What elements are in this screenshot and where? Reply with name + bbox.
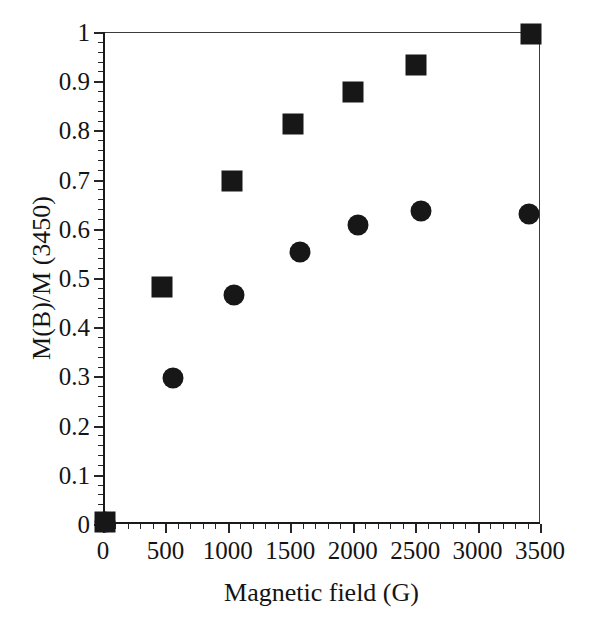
y-tick-major	[94, 278, 103, 280]
x-tick-minor	[378, 524, 379, 529]
y-tick-minor	[98, 298, 103, 299]
y-tick-minor	[98, 317, 103, 318]
x-tick-minor	[515, 524, 516, 529]
x-tick-label: 2500	[390, 538, 440, 563]
y-tick-minor	[98, 396, 103, 397]
y-tick-major	[94, 180, 103, 182]
x-tick-minor	[253, 524, 254, 529]
y-tick-label: 0.8	[59, 118, 90, 143]
y-tick-minor	[98, 347, 103, 348]
x-tick-major	[165, 524, 167, 533]
data-point-circle	[518, 204, 539, 225]
y-tick-minor	[98, 445, 103, 446]
x-tick-major	[228, 524, 230, 533]
x-tick-minor	[328, 524, 329, 529]
data-point-circle	[224, 285, 245, 306]
y-tick-minor	[98, 170, 103, 171]
y-tick-minor	[98, 101, 103, 102]
y-tick-minor	[98, 111, 103, 112]
y-tick-minor	[98, 485, 103, 486]
y-tick-minor	[98, 357, 103, 358]
y-tick-major	[94, 81, 103, 83]
plot-area: 00.10.20.30.40.50.60.70.80.91 0500100015…	[103, 32, 540, 524]
scan-artifact	[0, 604, 595, 622]
y-tick-minor	[98, 160, 103, 161]
y-tick-label: 1	[78, 20, 91, 45]
x-tick-minor	[278, 524, 279, 529]
y-tick-minor	[98, 504, 103, 505]
y-tick-minor	[98, 248, 103, 249]
data-point-square	[221, 170, 242, 191]
x-tick-minor	[240, 524, 241, 529]
y-tick-minor	[98, 258, 103, 259]
y-tick-major	[94, 376, 103, 378]
y-tick-label: 0.4	[59, 315, 90, 340]
y-axis-title: M(B)/M (3450)	[22, 32, 62, 524]
y-tick-minor	[98, 239, 103, 240]
x-tick-minor	[390, 524, 391, 529]
data-point-circle	[290, 242, 311, 263]
y-tick-minor	[98, 52, 103, 53]
x-tick-minor	[453, 524, 454, 529]
y-tick-minor	[98, 71, 103, 72]
y-tick-label: 0.2	[59, 413, 90, 438]
y-tick-minor	[98, 288, 103, 289]
x-tick-major	[478, 524, 480, 533]
x-axis-title: Magnetic field (G)	[103, 580, 540, 606]
x-tick-label: 1000	[203, 538, 253, 563]
x-tick-label: 2000	[328, 538, 378, 563]
x-tick-minor	[440, 524, 441, 529]
y-tick-minor	[98, 308, 103, 309]
x-tick-minor	[190, 524, 191, 529]
x-tick-label: 3000	[453, 538, 503, 563]
y-tick-minor	[98, 367, 103, 368]
y-tick-minor	[98, 42, 103, 43]
x-tick-minor	[403, 524, 404, 529]
y-tick-minor	[98, 189, 103, 190]
x-tick-major	[540, 524, 542, 533]
y-tick-minor	[98, 121, 103, 122]
y-tick-minor	[98, 199, 103, 200]
y-tick-major	[94, 475, 103, 477]
y-tick-minor	[98, 219, 103, 220]
y-tick-minor	[98, 62, 103, 63]
x-tick-minor	[140, 524, 141, 529]
data-point-square	[521, 24, 542, 45]
x-tick-minor	[128, 524, 129, 529]
y-tick-minor	[98, 435, 103, 436]
y-tick-minor	[98, 337, 103, 338]
y-tick-minor	[98, 150, 103, 151]
y-tick-minor	[98, 91, 103, 92]
x-tick-minor	[315, 524, 316, 529]
y-tick-major	[94, 229, 103, 231]
x-tick-minor	[503, 524, 504, 529]
y-tick-minor	[98, 494, 103, 495]
x-tick-major	[415, 524, 417, 533]
data-point-circle	[162, 367, 183, 388]
axis-spine-top	[103, 32, 540, 33]
data-point-circle	[347, 214, 368, 235]
figure: 00.10.20.30.40.50.60.70.80.91 0500100015…	[0, 0, 595, 622]
axis-spine-bottom	[103, 522, 540, 524]
y-tick-minor	[98, 465, 103, 466]
x-tick-minor	[365, 524, 366, 529]
x-tick-minor	[178, 524, 179, 529]
x-tick-minor	[203, 524, 204, 529]
y-tick-label: 0.3	[59, 364, 90, 389]
x-tick-label: 0	[97, 538, 110, 563]
x-tick-minor	[153, 524, 154, 529]
x-tick-label: 3500	[515, 538, 565, 563]
x-tick-label: 1500	[265, 538, 315, 563]
y-tick-minor	[98, 416, 103, 417]
x-tick-minor	[490, 524, 491, 529]
data-point-circle	[411, 200, 432, 221]
x-tick-label: 500	[147, 538, 185, 563]
axis-spine-right	[539, 32, 540, 524]
y-tick-minor	[98, 140, 103, 141]
x-tick-minor	[465, 524, 466, 529]
y-tick-major	[94, 130, 103, 132]
x-tick-minor	[215, 524, 216, 529]
x-tick-minor	[303, 524, 304, 529]
y-tick-major	[94, 327, 103, 329]
x-tick-minor	[528, 524, 529, 529]
